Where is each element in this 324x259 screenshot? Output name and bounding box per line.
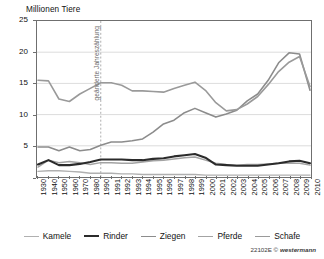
legend-label-rinder: Rinder	[103, 232, 128, 241]
legend-label-ziegen: Ziegen	[160, 232, 186, 241]
x-tick-label-2007: 2007	[282, 179, 289, 195]
legend-item-ziegen[interactable]: Ziegen	[141, 232, 186, 241]
legend-swatch-icon-pferde	[198, 236, 213, 237]
x-tick-mark-2007	[279, 176, 280, 179]
series-line-pferde	[38, 157, 310, 167]
legend-swatch-icon-ziegen	[141, 236, 156, 237]
x-tick-label-1970: 1970	[82, 179, 89, 195]
y-tick-label-15: 15	[4, 79, 28, 87]
x-tick-label-1994: 1994	[145, 179, 152, 195]
legend-item-schafe[interactable]: Schafe	[255, 232, 300, 241]
x-tick-label-1930: 1930	[40, 179, 47, 195]
series-line-ziegen	[38, 53, 310, 151]
x-tick-label-1940: 1940	[51, 179, 58, 195]
x-tick-mark-1992	[121, 176, 122, 179]
x-tick-mark-2010	[311, 176, 312, 179]
legend-swatch-icon-kamele	[24, 236, 39, 237]
x-tick-mark-1995	[153, 176, 154, 179]
x-tick-mark-1993	[132, 176, 133, 179]
x-tick-mark-1980	[90, 176, 91, 179]
x-tick-label-2009: 2009	[303, 179, 310, 195]
x-axis-labels: 1930194019501960197019801990199119921993…	[36, 179, 312, 219]
x-tick-mark-2005	[258, 176, 259, 179]
x-tick-mark-2006	[269, 176, 270, 179]
x-tick-label-1998: 1998	[188, 179, 195, 195]
x-tick-label-1980: 1980	[93, 179, 100, 195]
y-tick-label-5: 5	[4, 142, 28, 150]
x-tick-label-1992: 1992	[124, 179, 131, 195]
x-tick-mark-2003	[237, 176, 238, 179]
chart-legend: KameleRinderZiegenPferdeSchafe	[0, 228, 324, 244]
annotation-label-0: geänderte Jahreszählung	[93, 26, 100, 100]
x-tick-mark-1997	[174, 176, 175, 179]
footer-copyright-symbol: ©	[274, 246, 279, 253]
x-tick-mark-1998	[185, 176, 186, 179]
x-tick-label-2005: 2005	[261, 179, 268, 195]
x-tick-mark-1991	[111, 176, 112, 179]
series-line-rinder	[38, 154, 310, 166]
y-tick-label-25: 25	[4, 16, 28, 24]
x-tick-mark-1999	[195, 176, 196, 179]
x-tick-mark-1996	[163, 176, 164, 179]
x-tick-mark-1960	[69, 176, 70, 179]
x-tick-mark-2009	[300, 176, 301, 179]
x-tick-label-2004: 2004	[251, 179, 258, 195]
x-tick-mark-2002	[227, 176, 228, 179]
x-tick-label-1997: 1997	[177, 179, 184, 195]
legend-label-schafe: Schafe	[274, 232, 300, 241]
legend-item-rinder[interactable]: Rinder	[84, 232, 128, 241]
x-tick-mark-1930	[37, 176, 38, 179]
x-tick-label-1990: 1990	[103, 179, 110, 195]
x-tick-mark-1970	[79, 176, 80, 179]
y-tick-label-10: 10	[4, 111, 28, 119]
chart-figure: Millionen Tiere 510152025 geänderte Jahr…	[0, 0, 324, 259]
legend-swatch-icon-schafe	[255, 236, 270, 237]
x-tick-label-1960: 1960	[72, 179, 79, 195]
x-tick-label-1993: 1993	[135, 179, 142, 195]
y-axis-title: Millionen Tiere	[26, 5, 80, 14]
x-tick-label-2000: 2000	[209, 179, 216, 195]
y-tick-label-20: 20	[4, 48, 28, 56]
x-tick-mark-1994	[142, 176, 143, 179]
legend-swatch-icon-rinder	[84, 235, 99, 237]
x-tick-mark-2001	[216, 176, 217, 179]
legend-item-pferde[interactable]: Pferde	[198, 232, 242, 241]
x-tick-label-2002: 2002	[230, 179, 237, 195]
footer-publisher: westermann	[280, 246, 316, 253]
x-tick-mark-1990	[100, 176, 101, 179]
x-tick-label-2001: 2001	[219, 179, 226, 195]
x-tick-mark-1940	[48, 176, 49, 179]
legend-label-pferde: Pferde	[217, 232, 242, 241]
x-tick-label-1995: 1995	[156, 179, 163, 195]
x-tick-label-2006: 2006	[272, 179, 279, 195]
footer-code: 22102E	[251, 246, 272, 253]
series-line-kamele	[38, 171, 310, 175]
x-tick-mark-2008	[290, 176, 291, 179]
x-tick-label-1999: 1999	[198, 179, 205, 195]
x-tick-label-2008: 2008	[293, 179, 300, 195]
footer-credit: 22102E © westermann	[251, 246, 316, 253]
x-tick-label-2010: 2010	[314, 179, 321, 195]
x-tick-label-1996: 1996	[166, 179, 173, 195]
x-tick-mark-2004	[248, 176, 249, 179]
x-tick-mark-1950	[58, 176, 59, 179]
x-tick-label-1991: 1991	[114, 179, 121, 195]
x-tick-label-2003: 2003	[240, 179, 247, 195]
plot-canvas	[37, 21, 311, 177]
legend-item-kamele[interactable]: Kamele	[24, 232, 71, 241]
x-tick-label-1950: 1950	[61, 179, 68, 195]
plot-area	[36, 20, 312, 178]
x-tick-mark-2000	[206, 176, 207, 179]
legend-label-kamele: Kamele	[43, 232, 71, 241]
